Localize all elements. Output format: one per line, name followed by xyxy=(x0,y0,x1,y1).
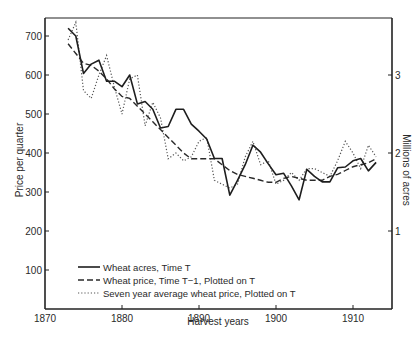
series-solid-line xyxy=(68,28,376,200)
series-dotted-line xyxy=(68,22,376,188)
x-tick-label: 1910 xyxy=(342,313,365,324)
y-axis-right-title: Millions of acres xyxy=(401,134,412,206)
y-tick-label: 400 xyxy=(25,148,42,159)
y-tick-label: 100 xyxy=(25,265,42,276)
legend-label: Wheat acres, Time T xyxy=(103,262,191,273)
y-tick-label: 600 xyxy=(25,70,42,81)
legend-item-wheat-price: Wheat price, Time T−1, Plotted on T xyxy=(78,275,255,286)
x-axis-title: Harvest years xyxy=(187,316,249,327)
x-tick-label: 1870 xyxy=(34,313,57,324)
y-right-tick-label: 2 xyxy=(395,148,401,159)
y-axis-left-title: Price per quarter xyxy=(14,122,25,197)
y-tick-label: 700 xyxy=(25,31,42,42)
y-axis-right-ticks: 123 xyxy=(388,70,401,237)
legend-label: Seven year average wheat price, Plotted … xyxy=(103,288,296,299)
y-tick-label: 500 xyxy=(25,109,42,120)
y-right-tick-label: 3 xyxy=(395,70,401,81)
series-lines xyxy=(68,22,376,200)
y-right-tick-label: 1 xyxy=(395,226,401,237)
y-tick-label: 300 xyxy=(25,187,42,198)
legend: Wheat acres, Time T Wheat price, Time T−… xyxy=(78,262,296,299)
wheat-chart: 18701880189019001910 1002003004005006007… xyxy=(0,0,420,344)
x-tick-label: 1900 xyxy=(265,313,288,324)
x-tick-label: 1880 xyxy=(111,313,134,324)
y-tick-label: 200 xyxy=(25,226,42,237)
legend-item-wheat-acres: Wheat acres, Time T xyxy=(78,262,191,273)
legend-item-seven-year-average: Seven year average wheat price, Plotted … xyxy=(78,288,296,299)
legend-label: Wheat price, Time T−1, Plotted on T xyxy=(103,275,255,286)
